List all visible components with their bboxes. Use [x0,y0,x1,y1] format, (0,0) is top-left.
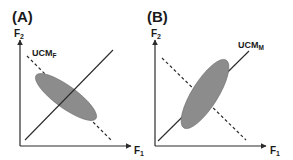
panel-b-label: (B) [147,8,168,25]
panel-a-label: (A) [12,8,33,25]
panel-b-y-axis-label: F2 [151,28,161,40]
ucm-diagram: (A) F2 F1 UCMF (B) F2 F1 UCMM [0,0,293,160]
panel-b: (B) F2 F1 UCMM [147,8,280,157]
panel-a-solid-line [25,50,113,140]
panel-b-variance-ellipse [173,53,237,135]
panel-a-y-axis-label: F2 [14,28,24,40]
panel-a-ucm-label: UCMF [32,48,57,59]
panel-a-x-axis-label: F1 [134,145,144,157]
panel-b-x-axis-label: F1 [270,145,280,157]
panel-a: (A) F2 F1 UCMF [12,8,144,157]
panel-b-ucm-label: UCMM [238,40,264,51]
panel-a-variance-ellipse [30,66,103,127]
